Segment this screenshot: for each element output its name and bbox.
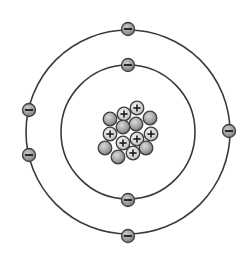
neutron [103, 112, 117, 126]
electron [122, 23, 135, 36]
neutron [98, 141, 112, 155]
atom-svg [0, 0, 251, 260]
electron [23, 149, 36, 162]
electron [122, 194, 135, 207]
proton [117, 107, 131, 121]
proton [144, 127, 158, 141]
electrons-group [23, 23, 236, 243]
atom-diagram: Bohr model of an atom [0, 0, 251, 260]
neutron [116, 120, 130, 134]
neutron [143, 111, 157, 125]
neutron [139, 141, 153, 155]
electron [223, 125, 236, 138]
neutron [111, 150, 125, 164]
electron [122, 59, 135, 72]
electron [23, 104, 36, 117]
proton [103, 127, 117, 141]
nucleus [98, 101, 158, 164]
electron [122, 230, 135, 243]
neutron [129, 117, 143, 131]
proton [126, 146, 140, 160]
proton [130, 101, 144, 115]
